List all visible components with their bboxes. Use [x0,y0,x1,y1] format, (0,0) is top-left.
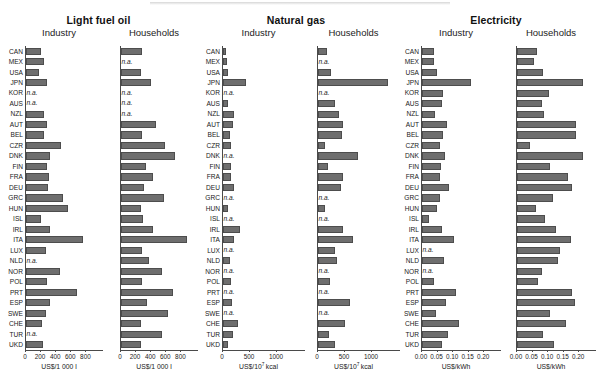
bar [517,184,573,191]
bar [422,58,435,65]
bar [517,310,551,317]
bar [26,320,42,327]
country-label-usa: USA [9,70,23,77]
no-data-marker: n.a. [27,331,38,338]
country-label-nzl: NZL [407,111,419,118]
bar [121,257,149,264]
country-label-irl: IRL [409,227,419,234]
country-label-pol: POL [406,279,419,286]
bar [318,299,351,306]
bar [223,111,235,118]
bar [223,205,228,212]
x-axis-tick-label: 800 [166,354,194,360]
country-label-dnk: DNK [405,153,419,160]
country-label-tur: TUR [9,332,23,339]
country-label-mex: MEX [206,59,220,66]
no-data-marker: n.a. [122,100,133,107]
bar [517,194,553,201]
country-label-ita: ITA [409,237,419,244]
bar [121,289,174,296]
country-label-ita: ITA [210,237,220,244]
bar [26,79,48,86]
bar [517,341,555,348]
bar [121,152,175,159]
bar [318,257,337,264]
panel-title-industry: Industry [403,27,509,38]
bar [517,299,576,306]
bar [26,268,60,275]
bar [517,163,551,170]
bar [318,79,388,86]
bar [26,310,46,317]
no-data-marker: n.a. [122,111,133,118]
country-label-pol: POL [10,279,23,286]
bar [121,247,143,254]
country-label-esp: ESP [406,300,419,307]
bar [517,247,561,254]
bar [517,131,576,138]
no-data-marker: n.a. [224,216,235,223]
country-label-ukd: UKD [206,342,220,349]
bar [121,236,188,243]
group-title: Electricity [395,14,597,26]
bar [223,184,234,191]
country-label-lux: LUX [10,248,23,255]
bar [26,341,43,348]
panel-title-industry: Industry [204,27,313,38]
bar [318,152,358,159]
panel-title-households: Households [102,27,206,38]
country-label-hun: HUN [9,206,23,213]
x-axis-tick-label: 500 [330,354,358,360]
bar [223,121,234,128]
country-label-can: CAN [405,49,419,56]
bar [517,142,530,149]
bar [318,320,345,327]
bar [422,111,436,118]
country-label-usa: USA [206,70,220,77]
bar [517,205,537,212]
bar [422,142,441,149]
bar [26,184,49,191]
no-data-marker: n.a. [224,90,235,97]
no-data-marker: n.a. [122,59,133,66]
country-label-swe: SWE [404,311,419,318]
bar [26,278,48,285]
bar [26,58,44,65]
country-label-esp: ESP [10,300,23,307]
bar [318,341,335,348]
bar [26,289,77,296]
country-label-fin: FIN [12,164,23,171]
no-data-marker: n.a. [27,258,38,265]
bar [26,152,51,159]
bar [517,48,538,55]
x-axis-line [25,350,103,351]
panel-title-households: Households [299,27,408,38]
country-label-tur: TUR [206,332,220,339]
country-label-grc: GRC [205,195,220,202]
country-label-czr: CZR [9,143,23,150]
bar [318,226,343,233]
bar [223,69,229,76]
country-label-deu: DEU [9,185,23,192]
x-axis-tick-label: 800 [71,354,99,360]
country-label-tur: TUR [405,332,419,339]
x-axis-line [317,350,400,351]
bar [422,205,438,212]
bar [121,341,141,348]
country-label-dnk: DNK [206,153,220,160]
country-label-nor: NOR [8,269,23,276]
country-label-can: CAN [206,49,220,56]
country-label-nor: NOR [404,269,419,276]
bar [422,79,472,86]
bar [121,48,143,55]
country-label-aus: AUS [206,101,220,108]
country-label-esp: ESP [207,300,220,307]
country-label-irl: IRL [210,227,220,234]
country-label-ukd: UKD [9,342,23,349]
figure-root: Light fuel oilNatural gasElectricityIndu… [0,0,597,386]
bar [517,331,544,338]
bar [422,90,443,97]
country-label-czr: CZR [405,143,419,150]
country-label-deu: DEU [405,185,419,192]
bar [517,111,544,118]
